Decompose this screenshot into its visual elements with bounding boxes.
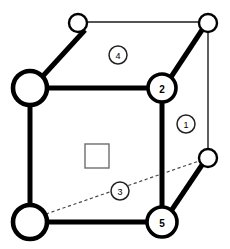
cube-diagram-figure: 2 5 1 3 4: [0, 0, 230, 249]
node-bottom-back-right[interactable]: [199, 149, 217, 167]
node-bottom-front-right-label: 5: [159, 218, 165, 229]
edge-node2-to-backright: [171, 30, 202, 77]
node-bottom-front-left[interactable]: [13, 205, 47, 239]
node-top-back-left[interactable]: [69, 14, 87, 32]
edge-topleft-to-backleft: [42, 30, 85, 77]
node-top-front-right-label: 2: [159, 84, 165, 95]
center-face-square: [85, 144, 109, 168]
tag-4-label: 4: [115, 51, 120, 61]
node-top-back-right[interactable]: [199, 14, 217, 32]
node-top-front-left[interactable]: [13, 71, 47, 105]
tag-1-label: 1: [183, 120, 188, 130]
edge-node5-to-backright: [171, 165, 202, 211]
cube-diagram-canvas: 2 5 1 3 4: [0, 0, 230, 249]
tag-3-label: 3: [117, 187, 122, 197]
